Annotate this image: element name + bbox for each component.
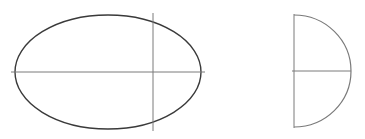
right-cap-figure (292, 14, 351, 128)
diagram-canvas (0, 0, 365, 139)
left-ellipse-figure (11, 13, 205, 131)
